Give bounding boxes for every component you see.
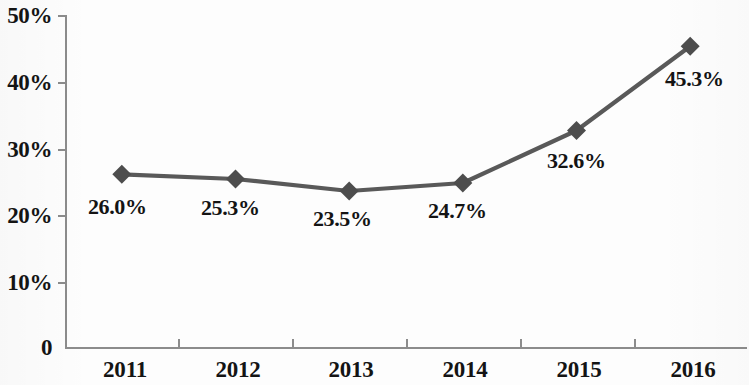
x-axis-label-2015: 2015: [524, 358, 634, 381]
y-axis-label: 50%: [0, 4, 52, 27]
x-axis-label-2016: 2016: [638, 358, 748, 381]
x-axis-tick: [634, 339, 636, 348]
x-axis-label-2011: 2011: [70, 358, 180, 381]
data-label-2016: 45.3%: [665, 68, 724, 90]
x-axis-label-2012: 2012: [183, 358, 293, 381]
x-axis-tick: [406, 339, 408, 348]
y-axis-tick: [58, 15, 66, 17]
x-axis-tick: [520, 339, 522, 348]
marker-point: [453, 173, 472, 192]
data-label-2014: 24.7%: [428, 200, 487, 222]
y-axis-label: 40%: [0, 71, 52, 94]
x-axis-tick: [178, 339, 180, 348]
x-axis-tick: [292, 339, 294, 348]
plot-area: [0, 0, 749, 385]
line-chart: 50% 40% 30% 20% 10% 0 2011 2012 2013 201…: [0, 0, 749, 385]
data-label-2015: 32.6%: [547, 150, 606, 172]
x-axis-label-2013: 2013: [296, 358, 406, 381]
y-axis-label: 0: [0, 336, 52, 359]
marker-point: [340, 181, 359, 200]
x-axis-label-2014: 2014: [410, 358, 520, 381]
y-axis-label: 30%: [0, 138, 52, 161]
marker-point: [226, 170, 245, 189]
y-axis-tick: [58, 282, 66, 284]
marker-point: [112, 165, 131, 184]
y-axis-tick: [58, 149, 66, 151]
data-label-2013: 23.5%: [313, 208, 372, 230]
y-axis-tick: [58, 215, 66, 217]
y-axis-tick: [58, 82, 66, 84]
data-label-2011: 26.0%: [88, 196, 147, 218]
y-axis-label: 10%: [0, 271, 52, 294]
y-axis-line: [65, 15, 67, 349]
data-label-2012: 25.3%: [201, 197, 260, 219]
y-axis-label: 20%: [0, 204, 52, 227]
